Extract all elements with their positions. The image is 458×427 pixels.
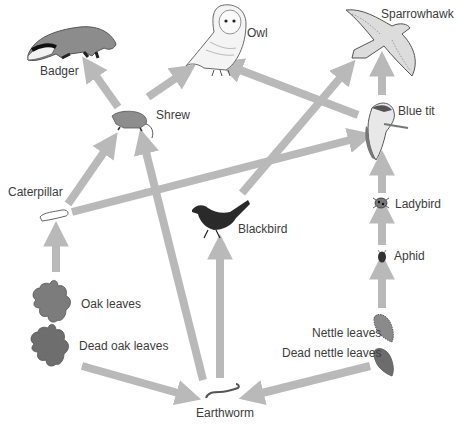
aphid-icon xyxy=(378,250,386,263)
food-web-diagram: Badger Owl Sparrowhawk Shrew Blue tit Ca… xyxy=(0,0,458,427)
owl-icon xyxy=(186,5,246,76)
label-blue-tit: Blue tit xyxy=(398,104,435,118)
shrew-icon xyxy=(112,111,153,138)
label-dead-nettle-leaves: Dead nettle leaves xyxy=(282,346,381,360)
label-caterpillar: Caterpillar xyxy=(8,185,63,199)
label-owl: Owl xyxy=(247,26,268,40)
label-dead-oak-leaves: Dead oak leaves xyxy=(79,339,168,353)
label-aphid: Aphid xyxy=(394,249,425,263)
label-blackbird: Blackbird xyxy=(238,222,287,236)
badger-icon xyxy=(28,27,116,61)
caterpillar-icon xyxy=(40,210,68,221)
ladybird-icon xyxy=(373,198,389,208)
label-oak-leaves: Oak leaves xyxy=(81,297,141,311)
oak-leaves-icon xyxy=(33,280,70,322)
label-ladybird: Ladybird xyxy=(395,197,441,211)
label-badger: Badger xyxy=(40,64,79,78)
dead-oak-leaves-icon xyxy=(31,324,68,366)
label-sparrowhawk: Sparrowhawk xyxy=(381,7,454,21)
label-shrew: Shrew xyxy=(156,108,190,122)
earthworm-icon xyxy=(206,384,239,398)
label-earthworm: Earthworm xyxy=(196,406,254,420)
label-nettle-leaves: Nettle leaves xyxy=(312,326,381,340)
